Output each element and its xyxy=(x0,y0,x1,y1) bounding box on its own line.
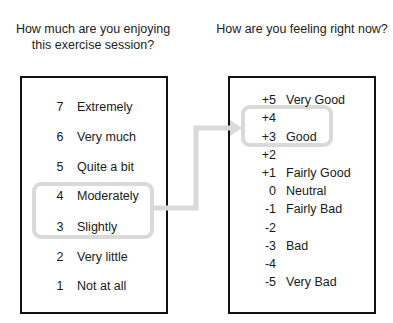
enjoyment-value: 4 xyxy=(54,189,66,203)
feeling-label: Bad xyxy=(286,239,308,253)
feeling-value: +2 xyxy=(254,148,276,162)
feeling-value: -3 xyxy=(254,239,276,253)
feeling-value: 0 xyxy=(254,184,276,198)
feeling-label: Very Bad xyxy=(286,275,337,289)
feeling-label: Fairly Bad xyxy=(286,202,342,216)
feeling-value: +3 xyxy=(254,130,276,144)
feeling-label: Very Good xyxy=(286,93,345,107)
enjoyment-label: Extremely xyxy=(77,100,133,114)
enjoyment-label: Moderately xyxy=(77,189,139,203)
enjoyment-value: 6 xyxy=(54,130,66,144)
enjoyment-value: 2 xyxy=(54,250,66,264)
enjoyment-label: Not at all xyxy=(77,279,126,293)
enjoyment-label: Slightly xyxy=(77,220,117,234)
feeling-value: +1 xyxy=(254,166,276,180)
feeling-value: -2 xyxy=(254,221,276,235)
feeling-value: -1 xyxy=(254,202,276,216)
feeling-label: Good xyxy=(286,130,317,144)
feeling-value: +4 xyxy=(254,111,276,125)
feeling-value: -5 xyxy=(254,275,276,289)
enjoyment-value: 5 xyxy=(54,160,66,174)
enjoyment-label: Very little xyxy=(77,250,128,264)
enjoyment-value: 3 xyxy=(54,220,66,234)
enjoyment-label: Quite a bit xyxy=(77,160,134,174)
enjoyment-label: Very much xyxy=(77,130,136,144)
enjoyment-value: 1 xyxy=(54,279,66,293)
feeling-label: Neutral xyxy=(286,184,326,198)
feeling-value: -4 xyxy=(254,257,276,271)
feeling-label: Fairly Good xyxy=(286,166,351,180)
feeling-value: +5 xyxy=(254,93,276,107)
enjoyment-value: 7 xyxy=(54,100,66,114)
